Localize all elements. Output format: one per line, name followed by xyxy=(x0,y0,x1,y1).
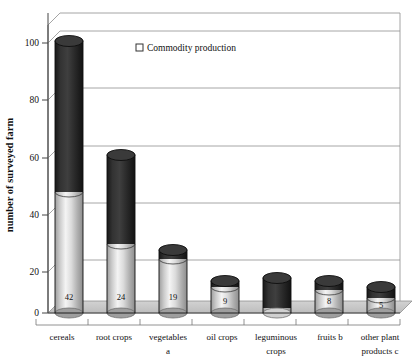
bar-other-plant-products[interactable]: 5 xyxy=(367,282,395,319)
bar-value-other-plant-products: 5 xyxy=(379,300,383,310)
cat-label-fruits: fruits b xyxy=(317,332,343,342)
cat-label-cereals: cereals xyxy=(50,332,75,342)
cat-label-vegetables-footnote: a xyxy=(166,346,170,356)
bar-cereals[interactable]: 42 xyxy=(55,36,83,319)
y-tick-label-60: 60 xyxy=(30,153,40,163)
bar-chart: 0 20 40 60 80 100 number of surveyed far… xyxy=(0,0,413,361)
y-tick-label-40: 40 xyxy=(30,210,40,220)
bar-value-oil-crops: 9 xyxy=(223,296,227,306)
bar-oil-crops[interactable]: 9 xyxy=(211,276,239,319)
legend-marker-commodity-production xyxy=(136,44,143,51)
bar-value-root-crops: 24 xyxy=(117,292,126,302)
legend[interactable]: Commodity production xyxy=(136,43,236,53)
bar-root-crops[interactable]: 24 xyxy=(107,150,135,319)
bar-value-cereals: 42 xyxy=(65,292,74,302)
plot-back-wall xyxy=(48,13,400,313)
y-axis-title: number of surveyed farm xyxy=(4,118,15,233)
cat-label-oil-crops: oil crops xyxy=(206,332,238,342)
cat-label-vegetables: vegetables xyxy=(149,332,187,342)
cat-label-other-plant-products: products c xyxy=(361,346,398,356)
bar-value-fruits: 8 xyxy=(327,296,331,306)
bar-leguminous-crops[interactable] xyxy=(263,273,291,319)
x-axis-labels: cereals root crops vegetables a oil crop… xyxy=(50,332,400,356)
bar-fruits[interactable]: 8 xyxy=(315,276,343,319)
y-tick-label-80: 80 xyxy=(30,95,40,105)
y-tick-label-0: 0 xyxy=(34,308,39,318)
cat-label-other-plant: other plant xyxy=(361,332,400,342)
cat-label-root-crops: root crops xyxy=(96,332,133,342)
chart-container: 0 20 40 60 80 100 number of surveyed far… xyxy=(0,0,413,361)
y-tick-label-20: 20 xyxy=(30,267,40,277)
y-tick-label-100: 100 xyxy=(25,38,40,48)
legend-label-commodity-production: Commodity production xyxy=(147,43,236,53)
y-axis: 0 20 40 60 80 100 xyxy=(25,13,48,318)
cat-label-leguminous-crops: crops xyxy=(266,346,286,356)
cat-label-leguminous: leguminous xyxy=(255,332,297,342)
bar-vegetables[interactable]: 19 xyxy=(159,245,187,319)
bar-value-vegetables: 19 xyxy=(169,292,178,302)
